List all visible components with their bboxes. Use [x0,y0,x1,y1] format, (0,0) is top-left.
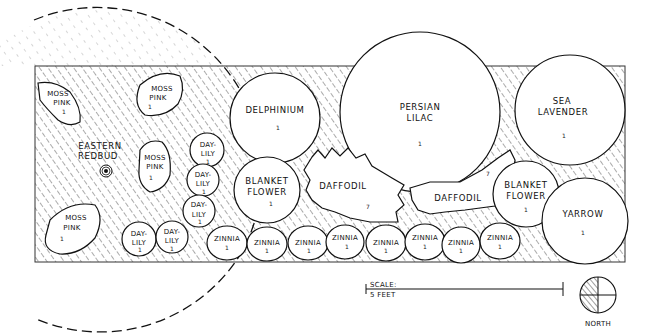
plant-day-lily-2: DAY- LILY 1 [187,164,219,196]
svg-text:1: 1 [384,247,388,254]
svg-text:DAFFODIL: DAFFODIL [319,181,366,191]
redbud-canopy-stipple [0,0,270,66]
svg-text:DAY-: DAY- [131,230,148,238]
plant-blanket-flower-1: BLANKET FLOWER 1 [234,157,300,223]
svg-text:DAY-: DAY- [195,171,212,179]
svg-text:ZINNIA: ZINNIA [487,234,513,242]
svg-text:1: 1 [498,243,502,250]
plant-zinnia-5: ZINNIA 1 [366,225,406,261]
svg-text:DAY-: DAY- [164,228,181,236]
svg-text:1: 1 [265,247,269,254]
svg-text:ZINNIA: ZINNIA [295,239,321,247]
plant-zinnia-8: ZINNIA 1 [480,223,520,259]
svg-text:DELPHINIUM: DELPHINIUM [245,105,304,115]
svg-text:7: 7 [366,203,370,210]
svg-text:1: 1 [345,243,349,250]
plant-zinnia-4: ZINNIA 1 [326,225,364,259]
north-compass-icon: NORTH [580,277,616,328]
svg-text:ZINNIA: ZINNIA [373,239,399,247]
plant-yarrow: YARROW 1 [542,178,628,264]
plant-day-lily-5: DAY- LILY 1 [156,221,188,253]
svg-text:PINK: PINK [149,94,166,102]
svg-text:DAY-: DAY- [200,141,217,149]
plant-zinnia-3: ZINNIA 1 [288,226,328,260]
plant-label: MOSS [47,90,69,98]
svg-text:ZINNIA: ZINNIA [214,235,240,243]
plant-day-lily-4: DAY- LILY 1 [122,222,156,256]
svg-text:1: 1 [418,140,422,147]
svg-text:1: 1 [60,235,64,242]
svg-text:FLOWER: FLOWER [247,187,286,197]
plant-day-lily-1: DAY- LILY 1 [190,133,224,167]
svg-text:LILY: LILY [201,150,216,158]
svg-text:PINK: PINK [53,99,70,107]
svg-text:EASTERN: EASTERN [78,141,122,151]
svg-text:FLOWER: FLOWER [506,191,545,201]
svg-text:PERSIAN: PERSIAN [400,102,441,112]
svg-text:1: 1 [62,108,66,115]
plant-zinnia-1: ZINNIA 1 [207,226,247,260]
svg-text:LILAC: LILAC [407,113,434,123]
garden-plan: MOSS PINK 1 MOSS PINK 1 EASTERN REDBUD M… [0,0,649,333]
svg-text:SEA: SEA [553,96,571,106]
svg-text:1: 1 [562,132,566,139]
svg-text:1: 1 [307,247,311,254]
svg-text:BLANKET: BLANKET [504,180,547,190]
svg-text:DAY-: DAY- [191,201,208,209]
svg-text:1: 1 [148,103,152,110]
svg-text:YARROW: YARROW [562,209,604,219]
svg-text:1: 1 [202,188,206,195]
plant-day-lily-3: DAY- LILY 1 [183,195,215,227]
svg-text:DAFFODIL: DAFFODIL [434,193,481,203]
svg-text:1: 1 [170,245,174,252]
svg-text:1: 1 [225,244,229,251]
plant-zinnia-7: ZINNIA 1 [442,227,480,263]
svg-text:MOSS: MOSS [65,214,87,222]
svg-text:ZINNIA: ZINNIA [448,239,474,247]
svg-text:SCALE:: SCALE: [370,281,397,289]
svg-text:MOSS: MOSS [144,154,166,162]
redbud-trunk-icon [100,165,112,177]
svg-text:1: 1 [581,229,585,236]
svg-text:PINK: PINK [63,224,80,232]
svg-text:LILY: LILY [196,180,211,188]
svg-text:BLANKET: BLANKET [245,176,288,186]
svg-text:LAVENDER: LAVENDER [538,107,588,117]
svg-text:PINK: PINK [146,163,163,171]
north-label: NORTH [585,320,611,328]
plant-zinnia-6: ZINNIA 1 [405,224,445,260]
svg-text:5 FEET: 5 FEET [370,291,396,299]
svg-text:1: 1 [138,246,142,253]
svg-text:1: 1 [459,247,463,254]
svg-text:LILY: LILY [165,237,180,245]
plant-moss-pink-3: MOSS PINK 1 [139,141,170,192]
plant-sea-lavender: SEA LAVENDER 1 [515,55,625,165]
svg-text:1: 1 [269,200,273,207]
svg-text:ZINNIA: ZINNIA [412,234,438,242]
plant-delphinium: DELPHINIUM 1 [230,73,320,163]
svg-text:1: 1 [423,243,427,250]
svg-text:7: 7 [486,170,490,177]
svg-text:REDBUD: REDBUD [78,151,118,161]
svg-text:ZINNIA: ZINNIA [254,239,280,247]
scale-bar: SCALE: 5 FEET [366,281,563,299]
svg-text:MOSS: MOSS [151,85,173,93]
svg-text:1: 1 [149,174,153,181]
svg-text:1: 1 [524,206,528,213]
svg-text:ZINNIA: ZINNIA [332,234,358,242]
svg-text:1: 1 [198,218,202,225]
plant-zinnia-2: ZINNIA 1 [247,227,287,261]
svg-text:1: 1 [276,124,280,131]
